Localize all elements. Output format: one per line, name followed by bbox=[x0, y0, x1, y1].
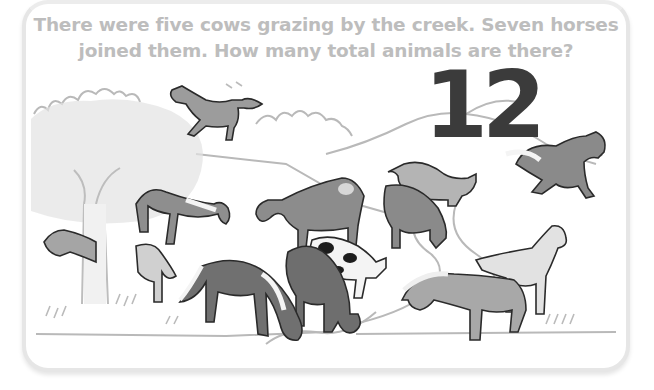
cow-center-spotted bbox=[256, 178, 364, 248]
answer-number: 12 bbox=[424, 60, 540, 152]
worksheet-card: There were five cows grazing by the cree… bbox=[22, 0, 630, 372]
question-line-1: There were five cows grazing by the cree… bbox=[26, 12, 626, 38]
horse-light-rear bbox=[136, 244, 176, 302]
horse-grazing-bottom-right bbox=[402, 274, 526, 340]
horse-dark-front bbox=[180, 260, 302, 340]
